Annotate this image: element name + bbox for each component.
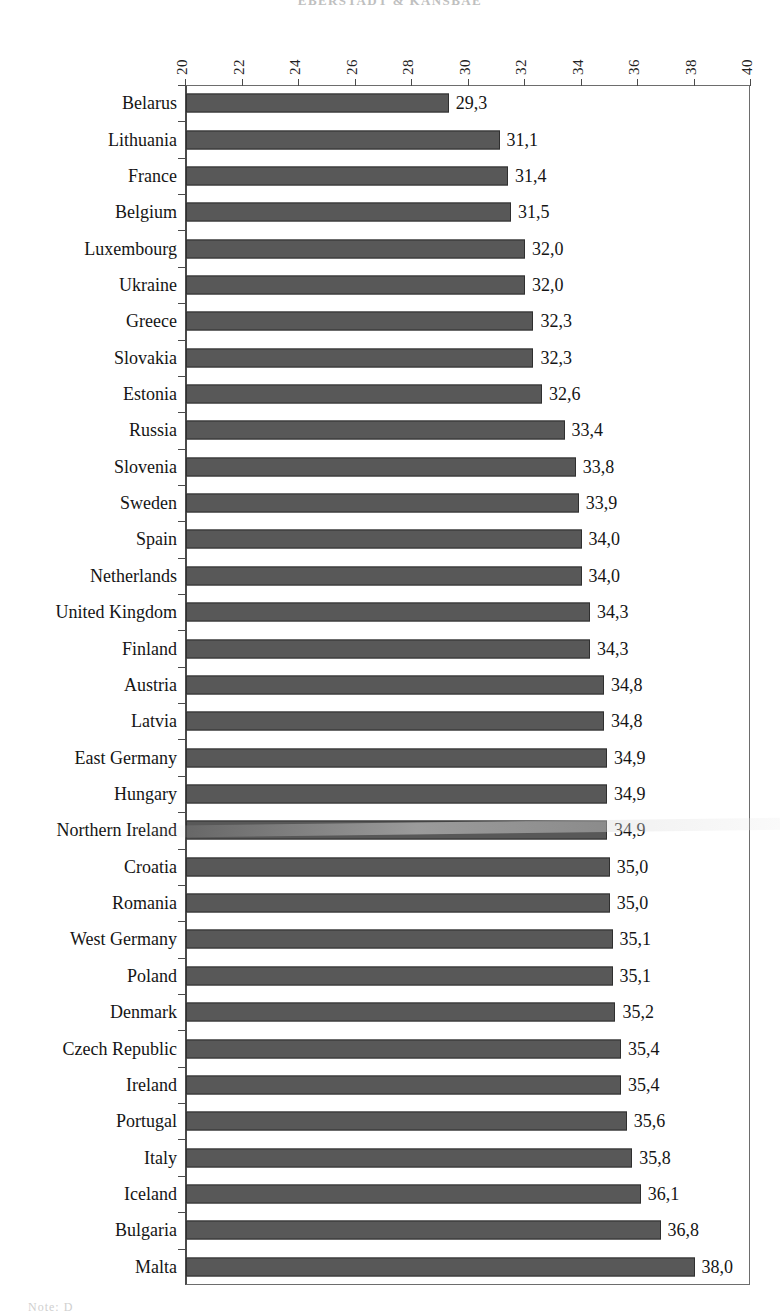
- y-axis-tick: [178, 776, 185, 777]
- bar-row[interactable]: Croatia35,0: [0, 849, 780, 885]
- y-axis-tick: [178, 885, 185, 886]
- bar-row[interactable]: Poland35,1: [0, 958, 780, 994]
- bar[interactable]: [186, 1148, 632, 1167]
- bar[interactable]: [186, 1003, 615, 1022]
- bar-row[interactable]: Belgium31,5: [0, 194, 780, 230]
- bar[interactable]: [186, 348, 533, 367]
- bar-row[interactable]: Portugal35,6: [0, 1103, 780, 1139]
- bar-value-label: 31,4: [515, 167, 547, 185]
- y-axis-tick: [178, 1212, 185, 1213]
- bar-row[interactable]: Czech Republic35,4: [0, 1030, 780, 1066]
- bar[interactable]: [186, 639, 590, 658]
- bar[interactable]: [186, 494, 579, 513]
- bar[interactable]: [186, 930, 613, 949]
- bar-value-label: 33,8: [583, 458, 615, 476]
- bar-value-label: 35,6: [634, 1112, 666, 1130]
- bar-row[interactable]: Sweden33,9: [0, 485, 780, 521]
- y-axis-tick: [178, 1103, 185, 1104]
- y-axis-tick: [178, 703, 185, 704]
- y-axis-tick: [178, 485, 185, 486]
- bar[interactable]: [186, 1184, 641, 1203]
- bar-row[interactable]: Spain34,0: [0, 521, 780, 557]
- bar-row[interactable]: Slovakia32,3: [0, 340, 780, 376]
- bar[interactable]: [186, 1257, 695, 1276]
- category-label: Greece: [126, 312, 177, 330]
- bar[interactable]: [186, 1075, 621, 1094]
- bar-row[interactable]: France31,4: [0, 158, 780, 194]
- category-label: Belgium: [115, 203, 177, 221]
- bar-row[interactable]: Ukraine32,0: [0, 267, 780, 303]
- y-axis-tick: [178, 594, 185, 595]
- y-axis-tick: [178, 121, 185, 122]
- bar-row[interactable]: Iceland36,1: [0, 1176, 780, 1212]
- x-axis-tick-label: 36: [626, 59, 643, 75]
- bar-row[interactable]: West Germany35,1: [0, 921, 780, 957]
- category-label: Ireland: [126, 1076, 177, 1094]
- bar[interactable]: [186, 821, 607, 840]
- bar-row[interactable]: Slovenia33,8: [0, 449, 780, 485]
- category-label: Lithuania: [108, 131, 177, 149]
- bar[interactable]: [186, 166, 508, 185]
- bar-row[interactable]: Estonia32,6: [0, 376, 780, 412]
- bar-row[interactable]: Hungary34,9: [0, 776, 780, 812]
- bar[interactable]: [186, 312, 533, 331]
- bar-row[interactable]: Latvia34,8: [0, 703, 780, 739]
- bar-row[interactable]: Belarus29,3: [0, 85, 780, 121]
- y-axis-tick: [178, 230, 185, 231]
- bar-value-label: 35,0: [617, 894, 649, 912]
- y-axis-tick: [178, 1067, 185, 1068]
- bar[interactable]: [186, 275, 525, 294]
- bar-row[interactable]: Austria34,8: [0, 667, 780, 703]
- bar[interactable]: [186, 857, 610, 876]
- bar[interactable]: [186, 712, 604, 731]
- bar[interactable]: [186, 457, 576, 476]
- bar-value-label: 31,5: [518, 203, 550, 221]
- bar[interactable]: [186, 385, 542, 404]
- bar[interactable]: [186, 94, 449, 113]
- category-label: Ukraine: [119, 276, 177, 294]
- bar-row[interactable]: Lithuania31,1: [0, 121, 780, 157]
- y-axis-tick: [178, 667, 185, 668]
- bar[interactable]: [186, 239, 525, 258]
- bar-row[interactable]: Luxembourg32,0: [0, 230, 780, 266]
- bar[interactable]: [186, 603, 590, 622]
- bar-row[interactable]: Italy35,8: [0, 1139, 780, 1175]
- y-axis-tick: [178, 958, 185, 959]
- bar-value-label: 32,0: [532, 276, 564, 294]
- bar-value-label: 35,0: [617, 858, 649, 876]
- bar-row[interactable]: Bulgaria36,8: [0, 1212, 780, 1248]
- category-label: Iceland: [124, 1185, 177, 1203]
- bar-value-label: 35,2: [622, 1003, 654, 1021]
- bar-row[interactable]: Greece32,3: [0, 303, 780, 339]
- bar-row[interactable]: Russia33,4: [0, 412, 780, 448]
- bar-row[interactable]: United Kingdom34,3: [0, 594, 780, 630]
- bar-row[interactable]: Finland34,3: [0, 630, 780, 666]
- bar[interactable]: [186, 1112, 627, 1131]
- bar[interactable]: [186, 203, 511, 222]
- bar[interactable]: [186, 1221, 661, 1240]
- bar[interactable]: [186, 785, 607, 804]
- bar[interactable]: [186, 566, 582, 585]
- bar-value-label: 32,0: [532, 240, 564, 258]
- bar[interactable]: [186, 530, 582, 549]
- bar-row[interactable]: Malta38,0: [0, 1249, 780, 1285]
- bar[interactable]: [186, 421, 565, 440]
- bar-rows: Belarus29,3Lithuania31,1France31,4Belgiu…: [0, 85, 780, 1285]
- x-axis-tick-label: 38: [683, 59, 700, 75]
- bar[interactable]: [186, 894, 610, 913]
- category-label: Poland: [127, 967, 177, 985]
- bar-row[interactable]: East Germany34,9: [0, 739, 780, 775]
- category-label: Slovenia: [114, 458, 177, 476]
- bar[interactable]: [186, 130, 500, 149]
- bar[interactable]: [186, 966, 613, 985]
- bar[interactable]: [186, 1039, 621, 1058]
- bar-row[interactable]: Northern Ireland34,9: [0, 812, 780, 848]
- bar[interactable]: [186, 748, 607, 767]
- category-label: Netherlands: [90, 567, 177, 585]
- bar[interactable]: [186, 675, 604, 694]
- bar-row[interactable]: Romania35,0: [0, 885, 780, 921]
- category-label: Estonia: [123, 385, 177, 403]
- bar-row[interactable]: Netherlands34,0: [0, 558, 780, 594]
- bar-row[interactable]: Ireland35,4: [0, 1067, 780, 1103]
- bar-row[interactable]: Denmark35,2: [0, 994, 780, 1030]
